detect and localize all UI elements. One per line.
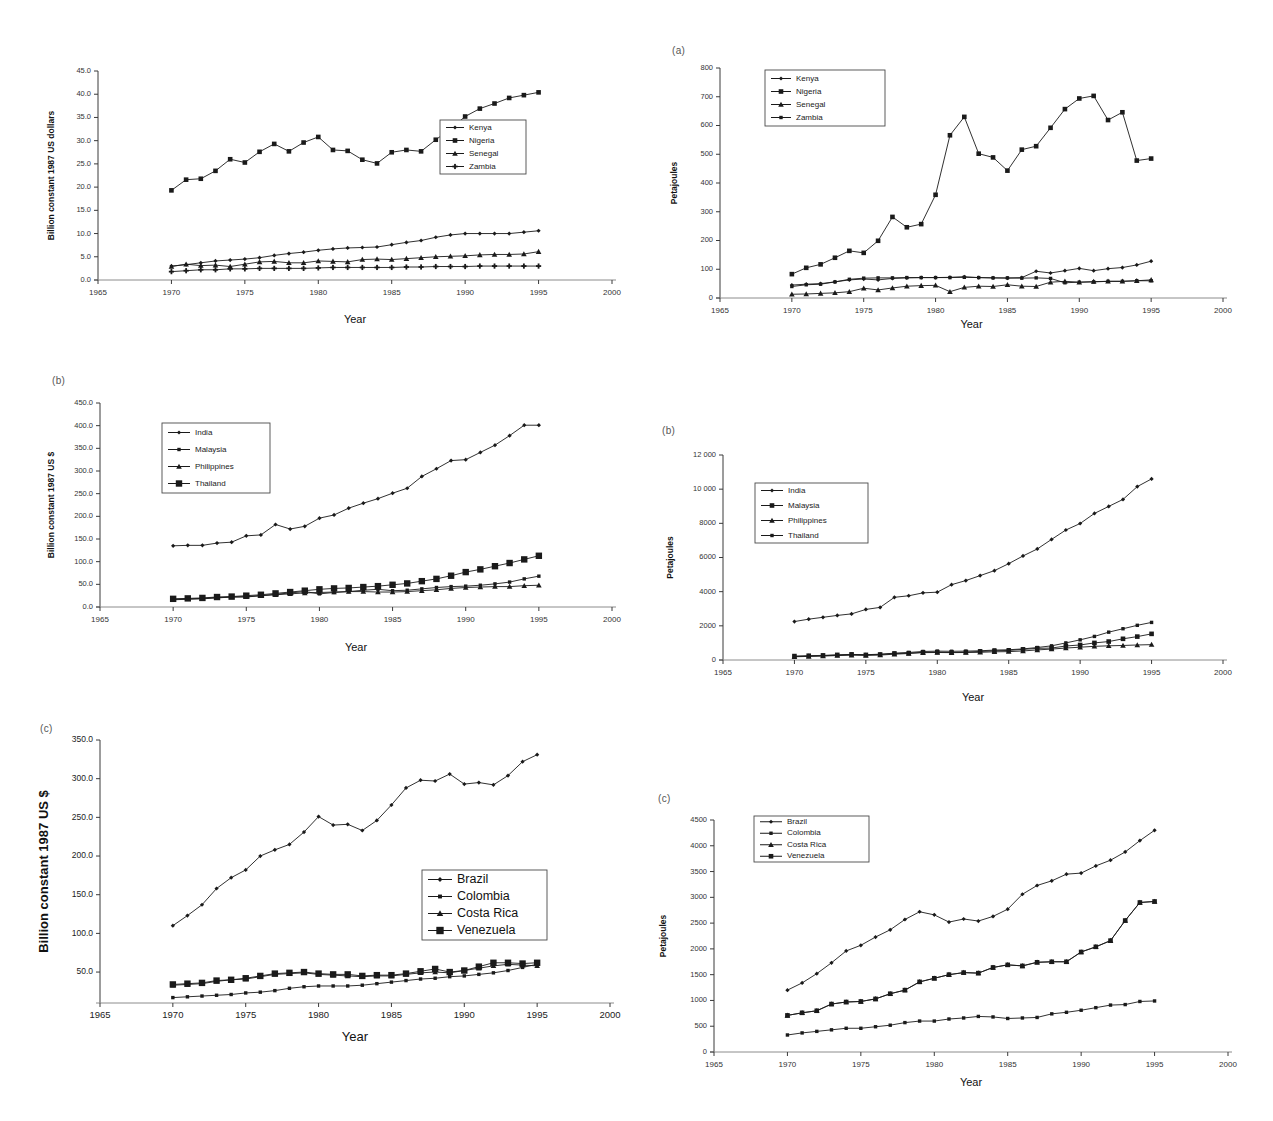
data-point-marker bbox=[1035, 1016, 1038, 1019]
data-point-marker bbox=[932, 913, 936, 917]
data-point-marker bbox=[903, 1021, 906, 1024]
data-point-marker bbox=[438, 895, 442, 899]
line-chart-b-right[interactable]: 0200040006000800010 00012 00019651970197… bbox=[655, 425, 1245, 705]
x-axis-tick-label: 1980 bbox=[309, 288, 327, 297]
data-point-marker bbox=[448, 975, 451, 978]
data-point-marker bbox=[361, 501, 365, 505]
x-axis-tick-label: 1980 bbox=[928, 668, 946, 677]
y-axis-tick-label: 0.0 bbox=[83, 602, 93, 611]
data-point-marker bbox=[862, 276, 865, 279]
data-point-marker bbox=[215, 541, 219, 545]
chart-legend: KenyaNigeriaSenegalZambia bbox=[440, 120, 526, 174]
data-point-marker bbox=[199, 176, 204, 181]
x-axis-tick-label: 1990 bbox=[1072, 1060, 1090, 1069]
legend-item-label: Zambia bbox=[469, 162, 496, 171]
data-point-marker bbox=[259, 990, 262, 993]
series-line bbox=[792, 277, 1151, 286]
y-axis-tick-label: 1000 bbox=[690, 995, 707, 1004]
y-axis-tick-label: 0 bbox=[712, 655, 716, 664]
y-axis-tick-label: 200.0 bbox=[74, 511, 93, 520]
data-point-marker bbox=[950, 650, 953, 653]
data-point-marker bbox=[890, 215, 895, 220]
line-chart-c-right[interactable]: 0500100015002000250030003500400045001965… bbox=[650, 790, 1250, 1090]
data-point-marker bbox=[215, 994, 218, 997]
data-point-marker bbox=[976, 919, 980, 923]
data-point-marker bbox=[360, 245, 364, 249]
panel-tag-b-right: (b) bbox=[662, 425, 675, 436]
data-point-marker bbox=[244, 991, 247, 994]
data-point-marker bbox=[463, 264, 468, 269]
y-axis-title: Petajoules bbox=[658, 914, 668, 957]
series-kenya bbox=[169, 229, 540, 268]
y-axis-tick-label: 50.0 bbox=[76, 966, 93, 976]
data-point-marker bbox=[991, 155, 996, 160]
data-point-marker bbox=[186, 543, 190, 547]
data-point-marker bbox=[521, 556, 527, 562]
data-point-marker bbox=[833, 255, 838, 260]
y-axis-tick-label: 0.0 bbox=[81, 275, 91, 284]
y-axis-tick-label: 40.0 bbox=[76, 89, 91, 98]
data-point-marker bbox=[976, 971, 981, 976]
data-point-marker bbox=[302, 985, 305, 988]
data-point-marker bbox=[375, 583, 381, 589]
x-axis-tick-label: 1985 bbox=[999, 306, 1017, 315]
data-point-marker bbox=[1107, 630, 1110, 633]
data-point-marker bbox=[1150, 621, 1153, 624]
x-axis-tick-label: 1995 bbox=[1143, 668, 1161, 677]
data-point-marker bbox=[785, 1013, 790, 1018]
data-point-marker bbox=[1153, 999, 1156, 1002]
data-point-marker bbox=[242, 266, 247, 271]
data-point-marker bbox=[273, 989, 276, 992]
series-colombia bbox=[171, 963, 539, 1000]
data-point-marker bbox=[537, 574, 540, 577]
data-point-marker bbox=[506, 969, 509, 972]
line-chart-c-left[interactable]: 50.0100.0150.0200.0250.0300.0350.0196519… bbox=[30, 715, 640, 1045]
data-point-marker bbox=[804, 266, 809, 271]
data-point-marker bbox=[859, 943, 863, 947]
data-point-marker bbox=[933, 192, 938, 197]
data-point-marker bbox=[1123, 918, 1128, 923]
y-axis-tick-label: 500 bbox=[694, 1021, 707, 1030]
line-chart-b-left[interactable]: 0.050.0100.0150.0200.0250.0300.0350.0400… bbox=[40, 375, 640, 655]
data-point-marker bbox=[375, 245, 379, 249]
legend-item-label: Costa Rica bbox=[457, 906, 518, 920]
data-point-marker bbox=[848, 278, 851, 281]
series-philippines bbox=[792, 642, 1155, 659]
data-point-marker bbox=[864, 607, 868, 611]
data-point-marker bbox=[317, 516, 321, 520]
data-point-marker bbox=[1107, 504, 1111, 508]
data-point-marker bbox=[992, 569, 996, 573]
x-axis-tick-label: 1995 bbox=[527, 1009, 548, 1020]
data-point-marker bbox=[448, 573, 454, 579]
data-point-marker bbox=[301, 140, 306, 145]
x-axis-tick-label: 1965 bbox=[705, 1060, 723, 1069]
data-point-marker bbox=[978, 649, 981, 652]
x-axis-tick-label: 1990 bbox=[1070, 306, 1088, 315]
data-point-marker bbox=[419, 149, 424, 154]
legend-item-label: Brazil bbox=[787, 817, 807, 826]
data-point-marker bbox=[447, 969, 453, 975]
data-point-marker bbox=[433, 977, 436, 980]
legend-item-label: Zambia bbox=[796, 113, 823, 122]
data-point-marker bbox=[936, 649, 939, 652]
data-point-marker bbox=[819, 283, 822, 286]
data-point-marker bbox=[907, 651, 910, 654]
series-zambia bbox=[790, 276, 1153, 289]
x-axis-tick-label: 1970 bbox=[162, 1009, 183, 1020]
data-point-marker bbox=[976, 151, 981, 156]
data-point-marker bbox=[228, 258, 232, 262]
data-point-marker bbox=[389, 582, 395, 588]
line-chart-a-left[interactable]: 0.05.010.015.020.025.030.035.040.045.019… bbox=[40, 45, 640, 325]
data-point-marker bbox=[800, 1031, 803, 1034]
x-axis-tick-label: 1975 bbox=[237, 615, 255, 624]
data-point-marker bbox=[170, 596, 176, 602]
line-chart-a-right[interactable]: 0100200300400500600700800196519701975198… bbox=[665, 40, 1245, 330]
y-axis-tick-label: 5.0 bbox=[81, 252, 91, 261]
data-point-marker bbox=[836, 653, 839, 656]
data-point-marker bbox=[184, 268, 189, 273]
data-point-marker bbox=[183, 261, 189, 266]
data-point-marker bbox=[1048, 126, 1053, 131]
data-point-marker bbox=[1106, 118, 1111, 123]
data-point-marker bbox=[448, 233, 452, 237]
data-point-marker bbox=[921, 591, 925, 595]
